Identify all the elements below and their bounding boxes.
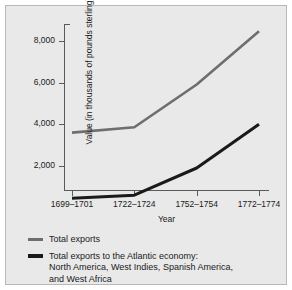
legend-swatch-atlantic-economy	[28, 254, 43, 258]
x-axis-tick	[259, 191, 260, 196]
series-lines	[64, 24, 269, 191]
legend-label-line: Total exports	[49, 234, 100, 246]
x-axis-tick	[197, 191, 198, 196]
legend-item-atlantic-economy: Total exports to the Atlantic economy: N…	[28, 251, 278, 286]
legend-label-line: Total exports to the Atlantic economy:	[49, 251, 233, 263]
y-axis-tick-label: 8,000	[34, 35, 55, 46]
y-axis-title: Value (in thousands of pounds sterling)	[84, 0, 94, 156]
legend-label-atlantic-economy: Total exports to the Atlantic economy: N…	[49, 251, 233, 286]
plot-area: 8,0006,0004,0002,000 1699–17011722–17241…	[64, 24, 269, 191]
chart-legend: Total exports Total exports to the Atlan…	[28, 234, 278, 290]
x-axis-tick-label: 1699–1701	[51, 199, 94, 210]
series-line	[72, 31, 259, 132]
legend-item-total-exports: Total exports	[28, 234, 278, 246]
y-axis-tick-label: 2,000	[34, 160, 55, 171]
chart-figure: 8,0006,0004,0002,000 1699–17011722–17241…	[5, 5, 287, 285]
y-axis-tick-label: 6,000	[34, 77, 55, 88]
x-axis-tick	[72, 191, 73, 196]
x-axis-tick-label: 1752–1754	[175, 199, 218, 210]
x-axis-tick-label: 1772–1774	[238, 199, 281, 210]
legend-label-total-exports: Total exports	[49, 234, 100, 246]
x-axis-tick-label: 1722–1724	[113, 199, 156, 210]
legend-label-line: North America, West Indies, Spanish Amer…	[49, 262, 233, 274]
x-axis-title: Year	[64, 214, 269, 224]
legend-label-line: and West Africa	[49, 274, 233, 286]
series-line	[72, 124, 259, 198]
legend-swatch-total-exports	[28, 238, 43, 241]
y-axis-tick-label: 4,000	[34, 118, 55, 129]
